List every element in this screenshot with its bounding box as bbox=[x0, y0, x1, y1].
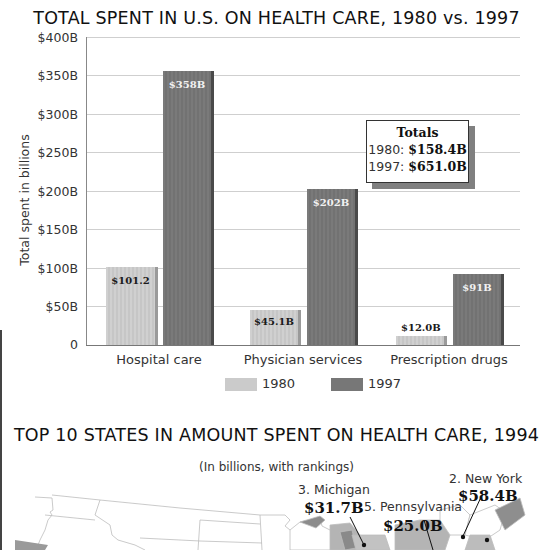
bar-value-label: $202B bbox=[307, 197, 355, 208]
category-label: Prescription drugs bbox=[374, 352, 524, 367]
y-axis-label: Total spent in billions bbox=[17, 134, 32, 265]
y-axis bbox=[86, 37, 87, 345]
state-value-pennsylvania: $25.0B bbox=[383, 517, 443, 535]
state-label-pennsylvania: 5. Pennsylvania bbox=[364, 499, 462, 514]
bar-value-label: $101.2 bbox=[106, 275, 155, 286]
totals-box: Totals 1980: $158.4B 1997: $651.0B bbox=[366, 120, 469, 183]
bar-physician-1997: $202B bbox=[307, 189, 355, 345]
y-tick-label: $400B bbox=[38, 30, 78, 45]
bar-prescription-1980 bbox=[396, 336, 444, 345]
gridline bbox=[86, 229, 520, 230]
legend-label-1980: 1980 bbox=[262, 376, 295, 391]
map-title: TOP 10 STATES IN AMOUNT SPENT ON HEALTH … bbox=[0, 425, 553, 445]
totals-value: $158.4B bbox=[408, 142, 466, 157]
bar-value-label: $358B bbox=[163, 79, 211, 90]
state-label-new-york: 2. New York bbox=[449, 471, 522, 486]
bar-value-label: $91B bbox=[453, 282, 501, 293]
category-label: Physician services bbox=[228, 352, 378, 367]
y-tick-label: $150B bbox=[38, 222, 78, 237]
gridline bbox=[86, 37, 520, 38]
bar-value-label: $12.0B bbox=[401, 322, 441, 333]
gridline bbox=[86, 75, 520, 76]
legend-label-1997: 1997 bbox=[368, 376, 401, 391]
gridline bbox=[86, 114, 520, 115]
chart-title: TOTAL SPENT IN U.S. ON HEALTH CARE, 1980… bbox=[0, 8, 553, 28]
bar-hospital-1997: $358B bbox=[163, 71, 211, 345]
bar-prescription-1997: $91B bbox=[453, 274, 501, 345]
category-label: Hospital care bbox=[84, 352, 234, 367]
bar-physician-1980: $45.1B bbox=[250, 310, 298, 345]
x-axis bbox=[86, 345, 520, 346]
y-tick-label: $100B bbox=[38, 261, 78, 276]
bar-value-label: $45.1B bbox=[250, 316, 298, 327]
y-tick-label: $350B bbox=[38, 68, 78, 83]
y-tick-label: $300B bbox=[38, 107, 78, 122]
totals-year: 1980: bbox=[368, 142, 404, 157]
bar-hospital-1980: $101.2 bbox=[106, 267, 155, 345]
totals-title: Totals bbox=[367, 125, 468, 140]
y-tick-label: $200B bbox=[38, 184, 78, 199]
gridline bbox=[86, 191, 520, 192]
state-value-michigan: $31.7B bbox=[304, 499, 364, 517]
totals-row-1980: 1980: $158.4B bbox=[367, 142, 468, 157]
y-tick-label: 0 bbox=[70, 337, 78, 352]
legend-swatch-1980 bbox=[225, 378, 257, 391]
state-label-michigan: 3. Michigan bbox=[298, 482, 370, 497]
state-value-new-york: $58.4B bbox=[458, 487, 518, 505]
totals-year: 1997: bbox=[368, 159, 404, 174]
totals-value: $651.0B bbox=[408, 159, 466, 174]
y-tick-label: $250B bbox=[38, 145, 78, 160]
legend-swatch-1997 bbox=[331, 378, 363, 391]
y-tick-label: $50B bbox=[46, 299, 78, 314]
totals-row-1997: 1997: $651.0B bbox=[367, 159, 468, 174]
